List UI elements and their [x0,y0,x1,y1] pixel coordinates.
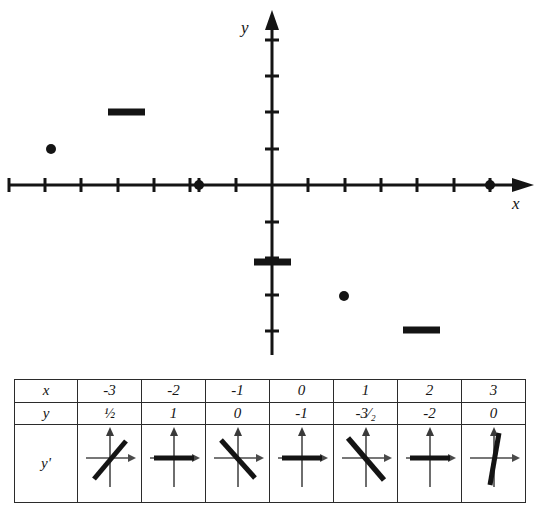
point-d [485,180,495,190]
cell-y-0: ½ [78,402,142,425]
cell-yprime-6 [462,425,526,503]
cell-y-4: -3⁄₂ [334,402,398,425]
values-table-wrap: x -3 -2 -1 0 1 2 3 y ½ 1 0 -1 -3⁄₂ -2 [14,379,526,503]
cell-yprime-0 [78,425,142,503]
slope-icon-zero [398,425,461,502]
coordinate-plane: y x [0,0,541,368]
slope-icon-negative [206,425,269,502]
cell-yprime-5 [398,425,462,503]
cell-y-1: 1 [142,402,206,425]
x-axis-label: x [511,194,520,213]
cell-x-4: 1 [334,380,398,403]
slope-icon-zero [270,425,333,502]
cell-yprime-4 [334,425,398,503]
cell-x-3: 0 [270,380,334,403]
cell-yprime-1 [142,425,206,503]
cell-y-6: 0 [462,402,526,425]
slope-icon-negative [334,425,397,502]
point-c [339,291,349,301]
y-axis-label: y [239,18,249,37]
figure-root: y x x -3 -2 [0,0,541,512]
table-row: y' [15,425,526,503]
values-table: x -3 -2 -1 0 1 2 3 y ½ 1 0 -1 -3⁄₂ -2 [14,379,526,503]
cell-y-3: -1 [270,402,334,425]
slope-icon-positive [78,425,141,502]
y-axis [265,10,279,355]
cell-y-2: 0 [206,402,270,425]
row-header-y: y [15,402,78,425]
cell-x-0: -3 [78,380,142,403]
table-row: x -3 -2 -1 0 1 2 3 [15,380,526,403]
slope-icon-zero [142,425,205,502]
row-header-x: x [15,380,78,403]
cell-x-2: -1 [206,380,270,403]
row-header-yprime: y' [15,425,78,503]
cell-yprime-2 [206,425,270,503]
point-a [46,144,56,154]
cell-x-6: 3 [462,380,526,403]
cell-x-5: 2 [398,380,462,403]
cell-x-1: -2 [142,380,206,403]
cell-yprime-3 [270,425,334,503]
table-row: y ½ 1 0 -1 -3⁄₂ -2 0 [15,402,526,425]
cell-y-5: -2 [398,402,462,425]
slope-icon-steep-positive [462,425,525,502]
point-b [194,180,204,190]
